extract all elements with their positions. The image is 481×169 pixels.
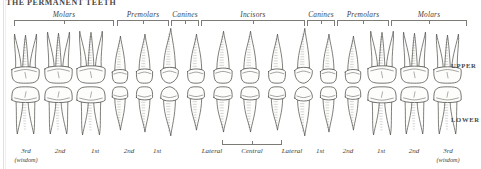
tooth-upper-canine-11 (291, 26, 316, 84)
tooth-lower-premolar-13 (342, 86, 364, 132)
page-edge-line (3, 0, 4, 169)
tooth-group-label: Premolars (337, 10, 389, 19)
tooth-upper-molar-16 (432, 32, 463, 84)
page-edge-line-2 (5, 0, 6, 169)
tooth-upper-molar-3 (75, 29, 107, 84)
tooth-upper-premolar-5 (133, 32, 156, 84)
group-bracket (337, 20, 389, 26)
tooth-lower-molar-14 (366, 86, 398, 137)
tooth-lower-premolar-4 (109, 86, 131, 132)
group-bracket (14, 20, 114, 26)
tooth-upper-premolar-4 (109, 34, 131, 84)
page-title: THE PERMANENT TEETH (6, 0, 116, 7)
upper-arch-label: UPPER (451, 62, 476, 69)
group-bracket (201, 20, 305, 26)
tooth-lower-molar-15 (399, 86, 430, 136)
tooth-lower-incisor-9 (237, 86, 263, 134)
tooth-upper-molar-14 (366, 29, 398, 84)
tooth-upper-molar-1 (10, 32, 41, 84)
tooth-lower-molar-1 (10, 86, 41, 136)
tooth-group-label: Molars (14, 10, 114, 19)
tooth-group-label: Canines (171, 10, 199, 19)
tooth-position-caption: 1st (135, 147, 179, 156)
tooth-group-label: Premolars (117, 10, 169, 19)
tooth-upper-premolar-13 (342, 34, 364, 84)
tooth-upper-molar-15 (399, 30, 430, 84)
tooth-lower-premolar-5 (133, 86, 156, 134)
tooth-group-label: Incisors (201, 10, 305, 19)
tooth-position-caption-sub: (wisdom) (426, 156, 470, 165)
tooth-upper-incisor-9 (237, 29, 263, 84)
tooth-lower-canine-11 (291, 86, 316, 138)
tooth-lower-molar-2 (43, 86, 74, 136)
tooth-upper-premolar-12 (317, 32, 340, 84)
tooth-upper-molar-2 (43, 30, 74, 84)
group-bracket (391, 20, 467, 26)
lower-arch-row (0, 86, 481, 138)
tooth-upper-canine-6 (157, 26, 182, 84)
tooth-lower-molar-16 (432, 86, 463, 136)
tooth-lower-incisor-7 (184, 86, 208, 132)
tooth-group-label: Molars (391, 10, 467, 19)
tooth-lower-incisor-8 (210, 86, 236, 134)
tooth-lower-premolar-12 (317, 86, 340, 134)
tooth-position-caption: Lateral (190, 147, 234, 156)
tooth-upper-incisor-8 (210, 29, 236, 84)
upper-arch-row (0, 30, 481, 84)
tooth-position-caption-sub: (wisdom) (4, 156, 48, 165)
tooth-position-caption: 3rd(wisdom) (426, 147, 470, 164)
tooth-group-label: Canines (307, 10, 335, 19)
tooth-position-caption: Central (230, 147, 274, 156)
central-bracket-line (222, 140, 282, 145)
tooth-lower-incisor-10 (265, 86, 289, 132)
lower-arch-label: LOWER (451, 116, 480, 123)
tooth-lower-canine-6 (157, 86, 182, 138)
tooth-upper-incisor-7 (184, 32, 208, 84)
tooth-upper-incisor-10 (265, 32, 289, 84)
tooth-lower-molar-3 (75, 86, 107, 137)
